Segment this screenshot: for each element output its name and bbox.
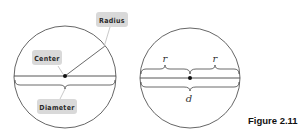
center-pointer (58, 66, 63, 74)
right-center-dot (188, 76, 192, 80)
right-radius-left-label: r (163, 53, 169, 64)
diameter-label-text: Diameter (39, 104, 75, 112)
right-diameter-label: d (186, 93, 192, 104)
figure-caption: Figure 2.11 (248, 115, 298, 126)
right-left-radius-brace (141, 65, 190, 74)
diameter-pointer (60, 89, 65, 99)
diameter-label: Diameter (37, 99, 77, 114)
right-circle-diagram: r r d (140, 28, 240, 128)
right-right-radius-brace (190, 65, 239, 74)
center-label: Center (32, 50, 62, 65)
radius-label-text: Radius (99, 17, 125, 25)
right-diameter-brace (141, 82, 239, 91)
left-center-dot (63, 74, 67, 78)
radius-pointer (104, 27, 110, 47)
radius-label: Radius (96, 12, 128, 27)
left-radius-line (65, 46, 105, 76)
right-radius-right-label: r (213, 53, 219, 64)
left-diameter-brace (15, 80, 115, 89)
left-circle-diagram: Radius Center Diameter (14, 12, 128, 128)
center-label-text: Center (34, 55, 60, 63)
